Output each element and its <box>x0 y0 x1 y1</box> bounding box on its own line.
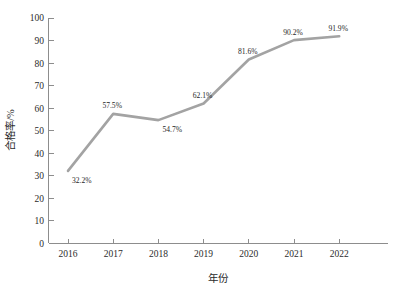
x-tick-label: 2022 <box>330 249 349 259</box>
line-chart: 0102030405060708090100 20162017201820192… <box>0 0 400 290</box>
data-point-label: 57.5% <box>102 101 122 110</box>
chart-background <box>0 0 400 290</box>
data-point-label: 32.2% <box>72 176 92 185</box>
y-tick-label: 50 <box>35 126 45 136</box>
data-point-label: 62.1% <box>193 91 213 100</box>
x-tick-label: 2019 <box>194 249 213 259</box>
y-tick-label: 30 <box>35 171 45 181</box>
data-point-label: 81.6% <box>238 47 258 56</box>
y-tick-label: 90 <box>35 36 45 46</box>
x-tick-label: 2020 <box>239 249 258 259</box>
x-tick-label: 2017 <box>104 249 123 259</box>
y-tick-label: 10 <box>35 216 45 226</box>
x-axis-title: 年份 <box>208 272 229 284</box>
y-tick-label: 20 <box>35 194 45 204</box>
y-tick-label: 0 <box>39 239 44 249</box>
y-tick-label: 80 <box>35 59 45 69</box>
data-point-label: 54.7% <box>162 125 182 134</box>
y-axis-title: 合格率/% <box>4 109 16 151</box>
data-point-label: 91.9% <box>328 24 348 33</box>
y-tick-label: 100 <box>30 13 45 23</box>
y-tick-label: 70 <box>35 81 45 91</box>
y-tick-label: 40 <box>35 149 45 159</box>
x-tick-label: 2021 <box>285 249 304 259</box>
y-tick-label: 60 <box>35 104 45 114</box>
x-tick-label: 2018 <box>149 249 168 259</box>
x-tick-label: 2016 <box>59 249 78 259</box>
chart-canvas: 0102030405060708090100 20162017201820192… <box>0 0 400 290</box>
data-point-label: 90.2% <box>283 28 303 37</box>
